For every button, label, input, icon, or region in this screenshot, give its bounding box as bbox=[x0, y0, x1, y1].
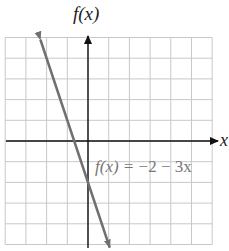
x-axis-label: x bbox=[219, 130, 228, 150]
function-graph: f(x) x f(x) = −2 − 3x bbox=[0, 0, 229, 251]
function-line bbox=[40, 40, 109, 248]
equation-label: f(x) = −2 − 3x bbox=[95, 157, 192, 176]
y-axis-label: f(x) bbox=[73, 3, 99, 25]
